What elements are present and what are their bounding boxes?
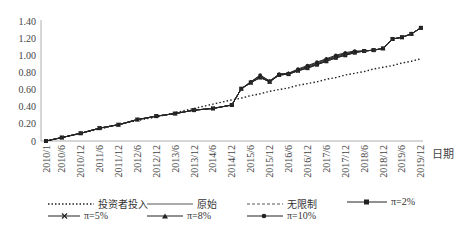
x-tick-label: 2016/12 (302, 145, 313, 178)
x-tick-label: 2010/6 (56, 145, 67, 173)
legend-item-unlimited: 无限制 (247, 196, 317, 211)
x-axis-label: 日期 (432, 148, 454, 160)
series-line (46, 28, 421, 141)
x-axis-ticks: 2010/12010/62010/122011/62011/122012/620… (41, 145, 427, 178)
x-tick-label: 2012/12 (151, 145, 162, 178)
x-tick-label: 2019/12 (415, 145, 426, 178)
x-tick-label: 2015/12 (264, 145, 275, 178)
x-tick-label: 2011/12 (113, 145, 124, 177)
x-tick-label: 2010/12 (75, 145, 86, 178)
x-tick-label: 2013/12 (189, 145, 200, 178)
x-tick-label: 2015/6 (245, 145, 256, 173)
series-line (46, 28, 421, 141)
legend-item-investor-input: 投资者投入 (48, 196, 148, 211)
line-chart: 00.200.400.600.801.001.201.40 2010/12010… (0, 0, 465, 196)
y-tick-label: 0.60 (19, 84, 37, 95)
series-layer (44, 26, 423, 143)
legend-label: π=5% (84, 210, 108, 221)
legend-item-original: 原始 (147, 196, 217, 211)
y-axis-ticks: 00.200.400.600.801.001.201.40 (19, 16, 37, 147)
series-line (46, 59, 421, 141)
legend-label: 投资者投入 (98, 196, 148, 211)
legend-label: π=8% (187, 210, 211, 221)
dotted-line-icon (48, 200, 94, 208)
x-marker-line-icon (48, 212, 80, 220)
x-tick-label: 2013/6 (170, 145, 181, 173)
y-tick-label: 0.20 (19, 118, 37, 129)
x-tick-label: 2018/12 (378, 145, 389, 178)
y-tick-label: 1.00 (19, 50, 37, 61)
x-tick-label: 2018/6 (359, 145, 370, 173)
x-tick-label: 2010/1 (41, 145, 52, 173)
x-tick-label: 2011/6 (94, 145, 105, 172)
legend-label: 原始 (197, 196, 217, 211)
x-tick-label: 2014/12 (226, 145, 237, 178)
square-marker-line-icon (347, 198, 387, 206)
x-tick-label: 2017/6 (321, 145, 332, 173)
triangle-marker-line-icon (147, 212, 183, 220)
dot-marker-line-icon (247, 212, 283, 220)
x-tick-label: 2016/6 (283, 145, 294, 173)
solid-line-icon (147, 200, 193, 208)
legend-item-pi-10: π=10% (247, 210, 316, 221)
x-tick-label: 2012/6 (132, 145, 143, 173)
x-tick-label: 2019/6 (396, 145, 407, 173)
legend-label: π=10% (287, 210, 316, 221)
series-line (46, 28, 421, 141)
series-line (46, 28, 421, 141)
y-tick-label: 1.20 (19, 33, 37, 44)
y-tick-label: 0 (31, 136, 36, 147)
y-tick-label: 0.80 (19, 67, 37, 78)
legend-item-pi-5: π=5% (48, 210, 108, 221)
series-line (46, 28, 421, 141)
x-tick-label: 2014/6 (207, 145, 218, 173)
y-tick-label: 1.40 (19, 16, 37, 27)
legend-item-pi-8: π=8% (147, 210, 211, 221)
dashed-line-icon (247, 200, 283, 208)
series-line (46, 28, 421, 141)
y-tick-label: 0.40 (19, 101, 37, 112)
legend-label: 无限制 (287, 196, 317, 211)
legend-item-pi-2: π=2% (347, 196, 415, 207)
x-tick-label: 2017/12 (340, 145, 351, 178)
legend-label: π=2% (391, 196, 415, 207)
